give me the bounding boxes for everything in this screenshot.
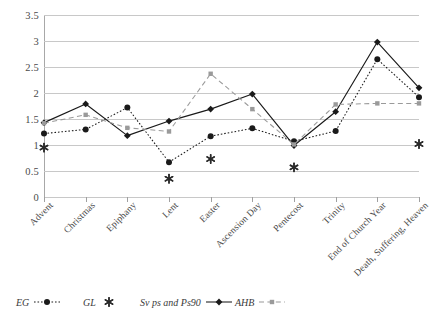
y-axis-tick-labels: 00.511.522.533.5 — [0, 15, 39, 197]
legend-item-ahb[interactable]: AHB — [235, 296, 287, 308]
y-tick-0-5: 0.5 — [25, 166, 39, 177]
y-tick-2-5: 2.5 — [25, 62, 39, 73]
x-label-lent: Lent — [160, 200, 180, 220]
x-axis-category-labels: AdventChristmasEpiphanyLentEasterAscensi… — [0, 200, 437, 295]
x-label-christmas: Christmas — [61, 200, 96, 235]
legend-item-sv-ps-and-ps90[interactable]: Sv ps and Ps90 — [140, 296, 234, 308]
legend-key-circle-dotted — [32, 296, 62, 308]
legend-item-eg[interactable]: EG — [16, 296, 62, 308]
y-tick-3: 3 — [34, 36, 39, 47]
x-label-epiphany: Epiphany — [105, 200, 139, 234]
gridline — [44, 67, 419, 68]
gridline — [44, 119, 419, 120]
legend-key-asterisk — [99, 296, 119, 308]
plot-area — [44, 15, 419, 197]
chart-legend: EGGLSv ps and Ps90AHB — [0, 296, 437, 322]
y-tick-1-5: 1.5 — [25, 114, 39, 125]
gridline — [44, 41, 419, 42]
legend-item-gl[interactable]: GL — [83, 296, 119, 308]
y-tick-3-5: 3.5 — [25, 10, 39, 21]
y-tick-2: 2 — [34, 88, 39, 99]
gridline — [44, 145, 419, 146]
legend-label: GL — [83, 297, 96, 308]
x-label-advent: Advent — [28, 200, 55, 227]
gridline — [44, 15, 419, 16]
x-label-pentecost: Pentecost — [271, 200, 305, 234]
x-label-trinity: Trinity — [320, 200, 346, 226]
legend-label: EG — [16, 297, 29, 308]
gridline — [44, 93, 419, 94]
legend-key-diamond-solid — [204, 296, 234, 308]
legend-label: Sv ps and Ps90 — [140, 297, 201, 308]
x-label-easter: Easter — [197, 200, 221, 224]
gridline — [44, 171, 419, 172]
x-label-death-suffering-heaven: Death, Suffering, Heaven — [352, 200, 430, 278]
chart-root: 00.511.522.533.5 AdventChristmasEpiphany… — [0, 0, 437, 331]
legend-key-square-dashed — [257, 296, 287, 308]
y-tick-1: 1 — [34, 140, 39, 151]
legend-label: AHB — [235, 297, 254, 308]
